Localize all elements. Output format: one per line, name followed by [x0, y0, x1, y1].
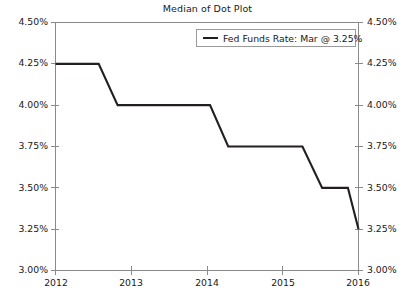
y-tick-label-right-3-00: 3.00% [367, 265, 413, 275]
chart-legend: Fed Funds Rate: Mar @ 3.25% [196, 29, 356, 47]
x-tick-label-2013: 2013 [110, 278, 152, 288]
legend-line-swatch-icon [203, 37, 218, 39]
x-tick-label-2014: 2014 [186, 278, 228, 288]
legend-label-fed-funds-rate: Fed Funds Rate: Mar @ 3.25% [223, 33, 362, 44]
x-tick-label-2015: 2015 [262, 278, 304, 288]
y-tick-label-right-3-75: 3.75% [367, 141, 413, 151]
x-tick-label-2016: 2016 [337, 278, 379, 288]
chart-container: Median of Dot Plot [0, 0, 415, 305]
y-tick-label-left-3-75: 3.75% [4, 141, 48, 151]
y-tick-label-left-3-00: 3.00% [4, 265, 48, 275]
y-tick-label-right-4-50: 4.50% [367, 17, 413, 27]
y-tick-label-left-3-50: 3.50% [4, 183, 48, 193]
y-tick-label-right-4-25: 4.25% [367, 58, 413, 68]
series-line-fed-funds-rate [56, 64, 359, 229]
y-tick-label-right-4-00: 4.00% [367, 100, 413, 110]
y-tick-label-right-3-25: 3.25% [367, 224, 413, 234]
x-tick-label-2012: 2012 [35, 278, 77, 288]
y-tick-label-left-3-25: 3.25% [4, 224, 48, 234]
y-tick-label-left-4-50: 4.50% [4, 17, 48, 27]
y-tick-label-left-4-25: 4.25% [4, 58, 48, 68]
y-tick-label-left-4-00: 4.00% [4, 100, 48, 110]
y-tick-label-right-3-50: 3.50% [367, 183, 413, 193]
